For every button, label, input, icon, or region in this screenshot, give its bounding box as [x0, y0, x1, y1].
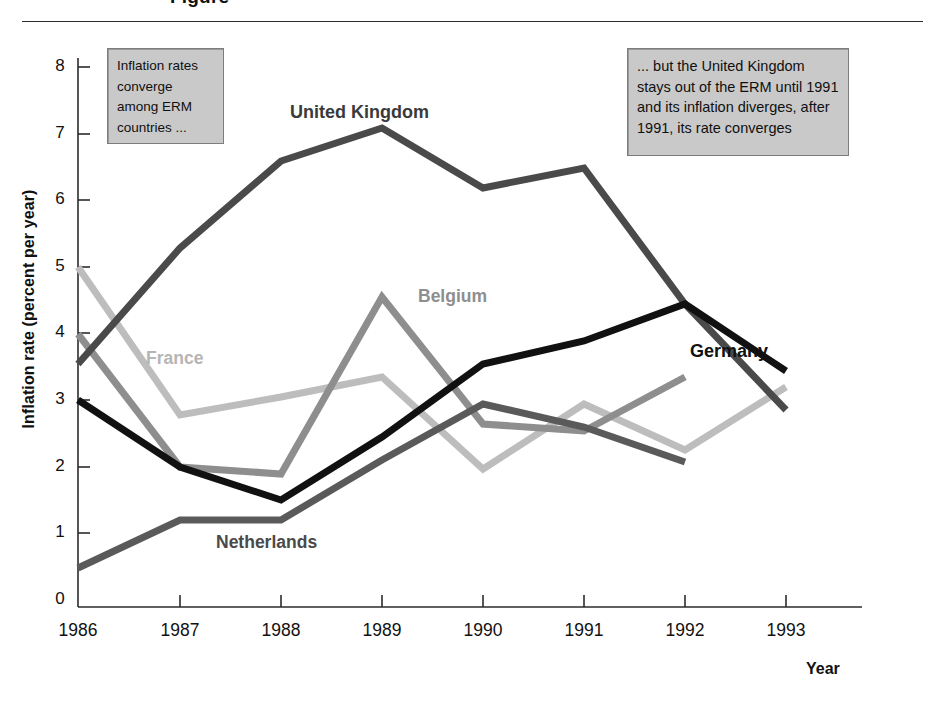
- y-tick-label-1: 1: [48, 522, 72, 542]
- y-tick-label-2: 2: [48, 456, 72, 476]
- x-tick-label-1992: 1992: [652, 620, 718, 641]
- series-label-netherlands: Netherlands: [216, 532, 317, 553]
- x-tick-label-1986: 1986: [45, 620, 111, 641]
- x-tick-label-1993: 1993: [753, 620, 819, 641]
- y-tick-label-7: 7: [48, 123, 72, 143]
- y-tick-label-8: 8: [48, 56, 72, 76]
- series-line-germany: [78, 304, 786, 500]
- y-axis-title: Inflation rate (percent per year): [20, 144, 38, 474]
- x-tick-label-1987: 1987: [147, 620, 213, 641]
- y-tick-label-6: 6: [48, 189, 72, 209]
- annotation-callout-left: Inflation rates converge among ERM count…: [107, 48, 224, 144]
- series-line-netherlands: [78, 404, 685, 568]
- x-tick-label-1989: 1989: [349, 620, 415, 641]
- series-label-united-kingdom: United Kingdom: [290, 102, 429, 123]
- series-label-belgium: Belgium: [418, 286, 487, 307]
- y-tick-label-4: 4: [48, 322, 72, 342]
- series-line-belgium: [78, 297, 685, 474]
- y-tick-label-3: 3: [48, 389, 72, 409]
- annotation-callout-right: ... but the United Kingdom stays out of …: [627, 48, 849, 156]
- y-tick-label-5: 5: [48, 256, 72, 276]
- series-label-germany: Germany: [690, 341, 768, 362]
- x-axis-title: Year: [806, 660, 840, 678]
- y-tick-label-0: 0: [48, 589, 72, 609]
- figure-container: Figure: [0, 0, 943, 707]
- series-label-france: France: [146, 348, 203, 369]
- x-tick-label-1991: 1991: [551, 620, 617, 641]
- x-tick-label-1990: 1990: [450, 620, 516, 641]
- x-tick-label-1988: 1988: [248, 620, 314, 641]
